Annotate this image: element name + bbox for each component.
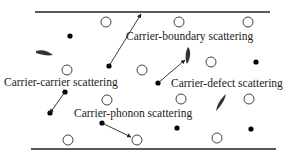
phonon-icon (137, 65, 147, 75)
carrier-carrier-label: Carrier-carrier scattering (4, 77, 118, 89)
carrier-carrier-link (50, 92, 65, 113)
phonon-icon (243, 17, 253, 27)
carrier-boundary-label: Carrier-boundary scattering (126, 31, 253, 43)
carrier-icon (248, 126, 253, 131)
phonon-icon (63, 135, 73, 145)
phonon-icon (102, 95, 112, 105)
carrier-phonon-label: Carrier-phonon scattering (74, 108, 192, 120)
carrier-icon (253, 59, 258, 64)
carrier-defect-label: Carrier-defect scattering (171, 78, 283, 90)
phonon-icon (132, 135, 142, 145)
phonon-icon (206, 57, 216, 67)
carrier-icon (67, 33, 72, 38)
phonon-icon (101, 17, 111, 27)
defect-icon (186, 47, 191, 64)
carrier-icon (174, 125, 179, 130)
defect-icon (36, 50, 53, 55)
phonon-icon (62, 65, 72, 75)
phonon-icon (176, 94, 186, 104)
phonon-icon (174, 17, 184, 27)
phonon-icon (212, 133, 222, 143)
phonon-icon (244, 94, 254, 104)
phonon-scattering-arrow (102, 123, 131, 137)
defect-icon (216, 94, 226, 111)
scattering-diagram: Carrier-boundary scattering Carrier-carr… (0, 0, 305, 158)
